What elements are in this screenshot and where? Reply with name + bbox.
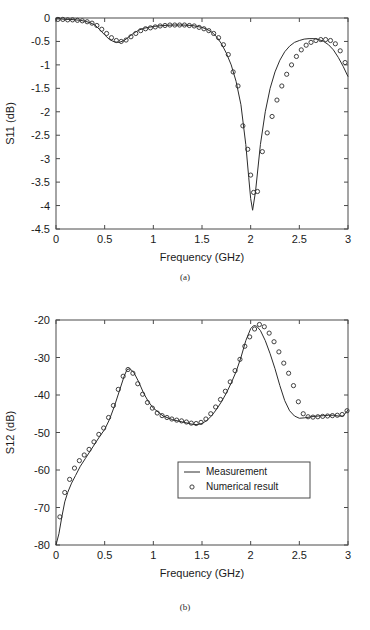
data-point [63, 490, 67, 494]
data-point [179, 419, 183, 423]
legend: MeasurementNumerical result [178, 462, 310, 498]
y-tick-label: -3 [40, 153, 50, 165]
y-tick-label: -70 [34, 502, 50, 514]
x-axis-title: Frequency (GHz) [160, 567, 244, 579]
y-tick-label: -30 [34, 352, 50, 364]
data-point [296, 400, 300, 404]
caption-b: (b) [0, 602, 370, 612]
y-tick-label: 0 [44, 12, 50, 24]
x-tick-label: 2.5 [292, 233, 307, 245]
y-tick-label: -1 [40, 59, 50, 71]
data-point [291, 384, 295, 388]
x-tick-label: 0.5 [97, 549, 112, 561]
data-point [153, 25, 157, 29]
data-point [299, 48, 303, 52]
y-tick-label: -60 [34, 464, 50, 476]
data-point [143, 27, 147, 31]
y-tick-label: -40 [34, 389, 50, 401]
data-point [252, 327, 256, 331]
y-tick-label: -2 [40, 106, 50, 118]
data-point [325, 414, 329, 418]
x-tick-label: 3 [345, 233, 351, 245]
y-tick-label: -4.5 [31, 223, 50, 235]
data-point [97, 432, 101, 436]
x-tick-label: 0.5 [97, 233, 112, 245]
data-point [214, 405, 218, 409]
y-tick-label: -2.5 [31, 129, 50, 141]
legend-entry-label: Numerical result [206, 481, 278, 492]
x-tick-label: 2 [248, 233, 254, 245]
y-tick-label: -50 [34, 427, 50, 439]
series-line-measurement [56, 326, 348, 545]
data-point [77, 459, 81, 463]
data-point [148, 26, 152, 30]
series-line-measurement [56, 19, 348, 210]
data-point [277, 350, 281, 354]
data-point [324, 37, 328, 41]
data-point [333, 42, 337, 46]
data-point [304, 43, 308, 47]
series-markers-numerical [56, 17, 347, 194]
data-point [105, 31, 109, 35]
data-point [275, 98, 279, 102]
data-point [282, 361, 286, 365]
legend-entry-label: Measurement [206, 466, 267, 477]
x-tick-label: 2.5 [292, 549, 307, 561]
data-point [343, 60, 347, 64]
figure-s12: 00.511.522.53-20-30-40-50-60-70-80Freque… [0, 300, 370, 630]
y-tick-label: -80 [34, 539, 50, 551]
data-point [289, 63, 293, 67]
figure-s11: 00.511.522.530-0.5-1-1.5-2-2.5-3-3.5-4-4… [0, 0, 370, 300]
data-point [285, 72, 289, 76]
y-axis-title: S11 (dB) [4, 102, 16, 145]
s12-plot: 00.511.522.53-20-30-40-50-60-70-80Freque… [0, 300, 370, 600]
data-point [248, 335, 252, 339]
data-point [72, 466, 76, 470]
x-axis-title: Frequency (GHz) [160, 251, 244, 263]
data-point [270, 114, 274, 118]
y-tick-label: -3.5 [31, 176, 50, 188]
data-point [189, 421, 193, 425]
x-tick-label: 1 [150, 233, 156, 245]
x-tick-label: 3 [345, 549, 351, 561]
data-point [309, 40, 313, 44]
y-tick-label: -1.5 [31, 82, 50, 94]
data-point [316, 415, 320, 419]
x-tick-label: 1.5 [194, 549, 209, 561]
data-point [257, 322, 261, 326]
data-point [218, 397, 222, 401]
x-tick-label: 0 [53, 233, 59, 245]
data-point [260, 150, 264, 154]
data-point [82, 453, 86, 457]
caption-a: (a) [0, 272, 370, 282]
data-point [265, 131, 269, 135]
data-point [249, 173, 253, 177]
data-point [204, 417, 208, 421]
data-point [321, 414, 325, 418]
y-tick-label: -4 [40, 200, 50, 212]
plot-frame [56, 18, 348, 229]
data-point [109, 36, 113, 40]
data-point [267, 331, 271, 335]
data-point [294, 54, 298, 58]
y-tick-label: -20 [34, 314, 50, 326]
data-point [301, 412, 305, 416]
y-axis-title: S12 (dB) [4, 411, 16, 454]
data-point [92, 440, 96, 444]
data-point [184, 420, 188, 424]
data-point [100, 27, 104, 31]
x-tick-label: 2 [248, 549, 254, 561]
data-point [87, 447, 91, 451]
y-tick-label: -0.5 [31, 35, 50, 47]
data-point [280, 84, 284, 88]
s11-plot: 00.511.522.530-0.5-1-1.5-2-2.5-3-3.5-4-4… [0, 0, 370, 270]
data-point [287, 371, 291, 375]
data-point [262, 325, 266, 329]
data-point [209, 412, 213, 416]
data-point [338, 49, 342, 53]
data-point [328, 38, 332, 42]
data-point [68, 477, 72, 481]
x-tick-label: 1 [150, 549, 156, 561]
x-tick-label: 1.5 [194, 233, 209, 245]
data-point [272, 340, 276, 344]
